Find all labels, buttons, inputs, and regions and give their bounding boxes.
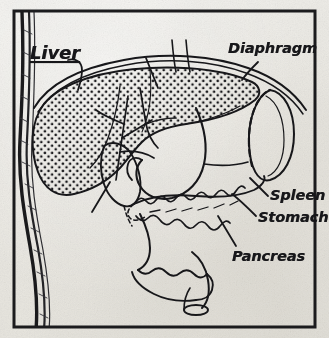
label-liver: Liver bbox=[30, 44, 80, 62]
pancreas-structure bbox=[128, 176, 265, 230]
label-diaphragm: Diaphragm bbox=[228, 41, 317, 56]
duodenum-structure bbox=[132, 214, 213, 315]
label-pancreas: Pancreas bbox=[232, 249, 305, 264]
anatomy-figure: Liver Hepatic ducts Diaphragm Spleen Sto… bbox=[0, 0, 329, 338]
leader-stomach bbox=[232, 194, 256, 216]
label-spleen: Spleen bbox=[270, 188, 325, 203]
label-stomach: Stomach bbox=[258, 210, 328, 225]
spleen-structure bbox=[249, 90, 294, 180]
liver-structure bbox=[33, 68, 260, 195]
